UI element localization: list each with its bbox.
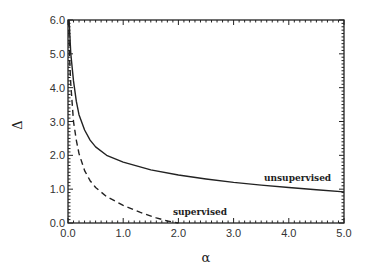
series-lines	[69, 20, 344, 223]
plot-frame	[68, 20, 344, 223]
chart: 0.01.02.03.04.05.00.01.02.03.04.05.06.0 …	[0, 0, 371, 276]
y-tick-label: 0.0	[50, 217, 65, 229]
y-tick-label: 1.0	[50, 183, 65, 195]
series-unsupervised	[69, 20, 344, 192]
y-tick-label: 2.0	[50, 149, 65, 161]
x-axis-label: α	[202, 250, 211, 265]
annotation-supervised: supervised	[173, 207, 228, 217]
y-tick-label: 6.0	[50, 14, 65, 26]
series-supervised	[69, 20, 179, 223]
tick-labels: 0.01.02.03.04.05.00.01.02.03.04.05.06.0	[50, 14, 352, 239]
y-tick-label: 4.0	[50, 82, 65, 94]
x-tick-label: 5.0	[336, 227, 351, 239]
annotations: unsupervisedsupervised	[173, 173, 332, 217]
x-tick-label: 4.0	[281, 227, 296, 239]
y-tick-label: 3.0	[50, 116, 65, 128]
x-tick-label: 3.0	[226, 227, 241, 239]
x-tick-label: 2.0	[171, 227, 186, 239]
x-tick-label: 1.0	[116, 227, 131, 239]
y-tick-label: 5.0	[50, 48, 65, 60]
y-axis-label: Δ	[10, 120, 25, 129]
axis-ticks	[68, 20, 344, 223]
annotation-unsupervised: unsupervised	[264, 173, 332, 183]
